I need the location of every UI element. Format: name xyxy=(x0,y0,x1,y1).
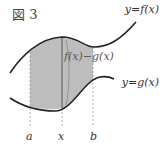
curve-f-label: y=f(x) xyxy=(125,3,159,16)
tick-label-b: b xyxy=(90,130,97,143)
tick-label-a: a xyxy=(26,130,33,143)
curve-g-label: y=g(x) xyxy=(122,76,159,89)
figure-title: 図 3 xyxy=(12,4,37,23)
difference-label: f(x)−g(x) xyxy=(64,50,114,63)
area-between-curves-figure: 図 3 y=f(x) y=g(x) f(x)−g(x) a x b xyxy=(0,0,163,149)
tick-label-x: x xyxy=(58,130,64,143)
